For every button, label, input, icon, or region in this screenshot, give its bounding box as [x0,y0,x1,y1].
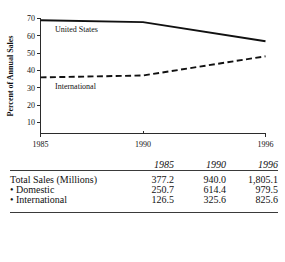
series-label-international: International [55,82,97,91]
cell-international-1985: 126.5 [122,195,174,205]
y-axis-ticks [37,19,41,123]
chart-axes [41,18,266,134]
series-label-united-states: United States [55,25,98,34]
table-header-1996: 1996 [226,160,278,171]
y-tick-50: 50 [27,49,35,58]
x-tick-1990: 1990 [135,140,151,149]
table-header-1985: 1985 [122,160,174,171]
y-tick-10: 10 [27,118,35,127]
sales-data-table: 1985 1990 1996 Total Sales (Millions) 37… [10,160,278,217]
x-tick-1996: 1996 [258,140,274,149]
table-header-blank [10,160,122,171]
y-axis-title: Percent of Annual Sales [6,36,15,117]
chart-canvas: Percent of Annual Sales 70 60 50 40 30 2… [0,0,285,152]
table-bottom-rule [10,213,278,218]
table-header-1990: 1990 [174,160,226,171]
cell-international-1990: 325.6 [174,195,226,205]
table-spacer [10,205,278,213]
y-axis-tick-labels: 70 60 50 40 30 20 10 [27,14,35,127]
y-tick-70: 70 [27,14,35,23]
y-tick-40: 40 [27,66,35,75]
y-tick-20: 20 [27,101,35,110]
table-row: • International 126.5 325.6 825.6 [10,195,278,205]
x-axis-tick-labels: 1985 1990 1996 [33,140,274,149]
y-tick-60: 60 [27,32,35,41]
row-label-international: • International [10,195,122,205]
y-tick-30: 30 [27,84,35,93]
series-line-international [41,56,266,77]
table-header-row: 1985 1990 1996 [10,160,278,171]
cell-international-1996: 825.6 [226,195,278,205]
sales-line-chart: Percent of Annual Sales 70 60 50 40 30 2… [0,0,285,152]
x-tick-1985: 1985 [33,140,49,149]
